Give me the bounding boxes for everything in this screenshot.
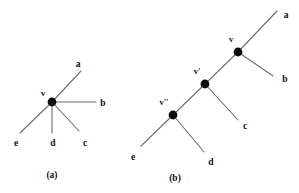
panel-a-label-d: d	[50, 138, 56, 148]
panel-b-group: v v' v'' a b c d e (b)	[131, 10, 289, 184]
panel-b-label-v: v	[229, 34, 234, 44]
panel-b-edge-d	[173, 115, 204, 152]
panel-a-edge-c	[52, 102, 79, 131]
panel-b-node-v-prime	[201, 80, 210, 89]
panel-b-caption: (b)	[169, 173, 181, 184]
panel-b-edge-b	[238, 52, 273, 76]
panel-a-edge-e	[20, 102, 52, 133]
graph-figure-svg: v a b c d e (a) v v' v''	[0, 0, 299, 193]
panel-a-label-v: v	[41, 88, 46, 98]
panel-a-label-c: c	[83, 138, 87, 148]
panel-a-node-v	[48, 98, 57, 107]
panel-b-label-v-prime: v'	[194, 66, 201, 76]
panel-a-label-a: a	[76, 59, 81, 69]
panel-a-group: v a b c d e (a)	[14, 59, 106, 181]
panel-b-label-a: a	[284, 10, 289, 20]
panel-b-edge-a	[238, 11, 277, 52]
panel-b-edge-e	[141, 115, 173, 146]
panel-a-caption: (a)	[46, 170, 57, 181]
panel-b-label-e: e	[131, 152, 135, 162]
panel-b-edge-vprime-vdprime	[173, 84, 205, 115]
panel-b-node-v	[234, 48, 243, 57]
panel-b-label-c: c	[243, 121, 247, 131]
panel-b-label-b: b	[282, 74, 287, 84]
panel-b-edge-v-vprime	[205, 52, 238, 84]
panel-a-label-b: b	[100, 98, 105, 108]
panel-a-edge-a	[52, 71, 81, 102]
panel-b-node-v-double-prime	[169, 111, 178, 120]
panel-b-edge-c	[205, 84, 238, 120]
panel-b-label-v-double-prime: v''	[160, 97, 169, 107]
panel-a-label-e: e	[14, 138, 18, 148]
panel-b-label-d: d	[208, 157, 214, 167]
figure-container: v a b c d e (a) v v' v''	[0, 0, 299, 193]
